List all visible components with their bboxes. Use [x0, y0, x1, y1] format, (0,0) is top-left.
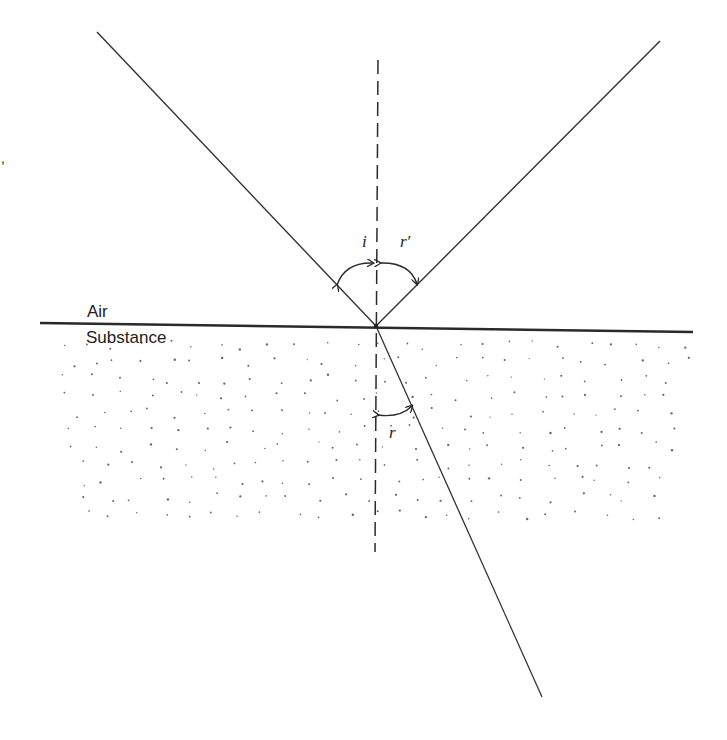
- angle-arc-incidence: [337, 263, 373, 285]
- angle-label-reflection: r′: [400, 232, 410, 252]
- stray-mark: ,: [1, 150, 5, 166]
- medium-label-substance: Substance: [86, 328, 166, 348]
- reflected-ray: [376, 41, 660, 326]
- angle-arc-reflection: [380, 263, 417, 284]
- refracted-ray: [376, 326, 542, 697]
- angle-label-refraction: r: [389, 423, 396, 443]
- diagram-svg: [0, 0, 727, 740]
- refraction-diagram: i r′ r Air Substance ,: [0, 0, 727, 740]
- point-of-incidence: [374, 324, 378, 328]
- normal-line: [375, 60, 378, 552]
- angle-label-incidence: i: [362, 232, 367, 252]
- angle-arc-refraction: [378, 406, 412, 416]
- medium-label-air: Air: [87, 302, 108, 322]
- incident-ray: [97, 32, 376, 326]
